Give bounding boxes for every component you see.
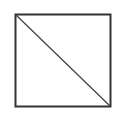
- square-diagonal-diagram: [0, 0, 113, 114]
- diagonal-line: [16, 15, 110, 106]
